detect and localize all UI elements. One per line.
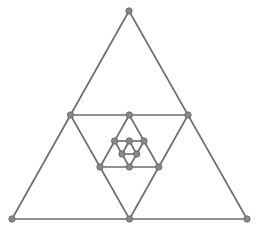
vertex-points xyxy=(9,8,250,222)
vertex-point xyxy=(126,216,132,222)
vertex-point xyxy=(119,151,125,157)
vertex-point xyxy=(244,216,250,222)
vertex-point xyxy=(111,138,117,144)
vertex-point xyxy=(126,164,132,170)
vertex-point xyxy=(141,138,147,144)
vertex-point xyxy=(156,164,162,170)
vertex-point xyxy=(97,164,103,170)
vertex-point xyxy=(126,112,132,118)
vertex-point xyxy=(133,151,139,157)
vertex-point xyxy=(126,138,132,144)
vertex-point xyxy=(185,112,191,118)
vertex-point xyxy=(67,112,73,118)
vertex-point xyxy=(9,216,15,222)
vertex-point xyxy=(126,8,132,14)
nested-triangles-diagram xyxy=(0,0,258,238)
